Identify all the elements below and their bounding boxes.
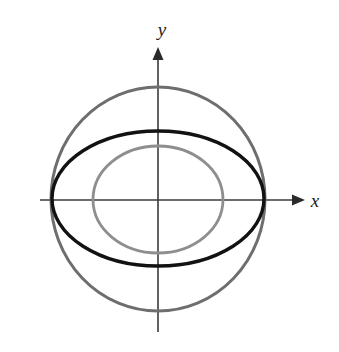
- y-axis-label: y: [156, 19, 167, 40]
- graph-canvas: x y: [0, 0, 339, 352]
- y-axis-arrow-icon: [153, 47, 164, 60]
- x-axis-arrow-icon: [292, 195, 305, 206]
- x-axis-label: x: [310, 190, 320, 211]
- figure-container: x y: [0, 0, 339, 352]
